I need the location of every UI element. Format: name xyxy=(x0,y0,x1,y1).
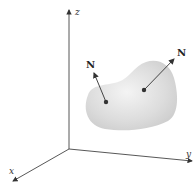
y-axis xyxy=(69,149,192,161)
x-axis-label: x xyxy=(9,166,14,176)
y-axis-label: y xyxy=(185,149,192,159)
surface-normal-diagram: z y x N N xyxy=(0,0,195,189)
z-axis-label: z xyxy=(74,7,80,17)
surface-patch xyxy=(86,61,177,131)
normal-label: N xyxy=(177,47,186,58)
x-axis xyxy=(13,149,69,181)
normal-label: N xyxy=(86,59,95,70)
surface-point xyxy=(142,88,146,92)
surface-point xyxy=(104,100,108,104)
